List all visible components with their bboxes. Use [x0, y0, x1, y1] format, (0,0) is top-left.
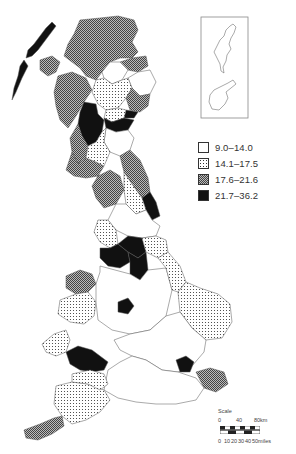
scale-km-tick: 40: [236, 417, 242, 423]
legend-label: 21.7–36.2: [215, 190, 258, 201]
legend-item-c4: 21.7–36.2: [198, 187, 258, 203]
shetland-south: [209, 80, 236, 110]
legend-label: 17.6–21.6: [215, 174, 258, 185]
scale-km-tick: 80km: [254, 417, 267, 423]
legend-label: 9.0–14.0: [215, 142, 253, 153]
scale-mile-tick: 20: [231, 438, 237, 444]
region-mid-wales: [58, 292, 96, 324]
scale-mile-tick: 0: [218, 438, 221, 444]
region-skye-lochalsh: [40, 56, 60, 76]
scale-mile-tick: 40: [245, 438, 251, 444]
region-layer: [12, 16, 232, 440]
scale-mile-tick: 30: [238, 438, 244, 444]
scale-bar-graphic: [220, 426, 260, 434]
legend-label: 14.1–17.5: [215, 158, 258, 169]
legend: 9.0–14.0 14.1–17.5 17.6–21.6 21.7–36.2: [198, 139, 258, 203]
choropleth-map: [0, 0, 296, 454]
shetland-inset: [201, 17, 248, 118]
region-cornwall: [24, 416, 64, 440]
legend-item-c2: 14.1–17.5: [198, 155, 258, 171]
legend-swatch-dots: [198, 158, 209, 169]
shetland-mainland: [214, 24, 236, 73]
scale-mile-tick: 50miles: [252, 438, 271, 444]
region-north-wales: [66, 270, 96, 294]
scale-mile-tick: 10: [224, 438, 230, 444]
legend-item-c3: 17.6–21.6: [198, 171, 258, 187]
legend-swatch-crosshatch: [198, 174, 209, 185]
region-dyfed: [42, 330, 70, 356]
legend-item-c1: 9.0–14.0: [198, 139, 258, 155]
scale-title: Scale: [218, 408, 232, 414]
legend-swatch-solid: [198, 190, 209, 201]
legend-swatch-blank: [198, 142, 209, 153]
region-south-wales-valleys: [66, 346, 108, 372]
scale-km-tick: 0: [218, 417, 221, 423]
